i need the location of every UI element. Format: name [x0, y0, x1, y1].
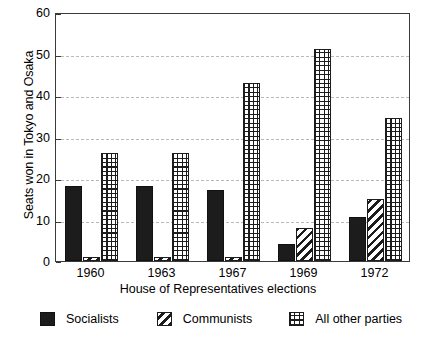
bar-all-other-parties-1972: [385, 118, 402, 261]
bar-socialists-1967: [207, 190, 224, 261]
bar-socialists-1963: [136, 186, 153, 261]
bar-socialists-1972: [349, 217, 366, 261]
legend-swatch-icon: [289, 312, 304, 326]
bar-chart: Seats won in Tokyo and Osaka 01020304050…: [0, 0, 436, 342]
bar-group-1960: [56, 14, 127, 261]
legend-swatch-icon: [40, 312, 55, 326]
y-tick-label: 30: [6, 131, 50, 144]
bar-communists-1972: [367, 199, 384, 261]
bar-group-1963: [127, 14, 198, 261]
y-tick-label: 20: [6, 173, 50, 186]
y-tick-label: 0: [6, 256, 50, 269]
bar-communists-1969: [296, 228, 313, 261]
legend-label: Socialists: [66, 312, 119, 326]
bar-all-other-parties-1969: [314, 49, 331, 261]
y-tick-label: 50: [6, 48, 50, 61]
bar-all-other-parties-1963: [172, 153, 189, 261]
y-tick-label: 60: [6, 7, 50, 20]
bar-communists-1967: [225, 257, 242, 261]
y-tick-label: 40: [6, 90, 50, 103]
plot-area: [55, 13, 410, 262]
legend-label: Communists: [183, 312, 252, 326]
x-tick-label-1967: 1967: [193, 266, 273, 280]
bar-group-1969: [269, 14, 340, 261]
legend-swatch-icon: [157, 312, 172, 326]
x-tick-label-1963: 1963: [122, 266, 202, 280]
x-tick-label-1972: 1972: [335, 266, 415, 280]
y-tick-label: 10: [6, 214, 50, 227]
legend-item-communists[interactable]: Communists: [157, 312, 252, 326]
x-tick-label-1960: 1960: [51, 266, 131, 280]
bar-communists-1960: [83, 257, 100, 261]
bar-all-other-parties-1960: [101, 153, 118, 261]
legend-item-socialists[interactable]: Socialists: [40, 312, 119, 326]
legend-label: All other parties: [315, 312, 402, 326]
y-tick-mark-0: [56, 262, 61, 263]
bar-socialists-1969: [278, 244, 295, 261]
x-tick-label-1969: 1969: [264, 266, 344, 280]
legend-item-all-other-parties[interactable]: All other parties: [289, 312, 402, 326]
bar-group-1972: [340, 14, 411, 261]
bar-socialists-1960: [65, 186, 82, 261]
bar-all-other-parties-1967: [243, 83, 260, 261]
x-axis-title: House of Representatives elections: [0, 282, 436, 296]
bar-group-1967: [198, 14, 269, 261]
chart-legend: SocialistsCommunistsAll other parties: [40, 312, 420, 326]
bar-communists-1963: [154, 257, 171, 261]
